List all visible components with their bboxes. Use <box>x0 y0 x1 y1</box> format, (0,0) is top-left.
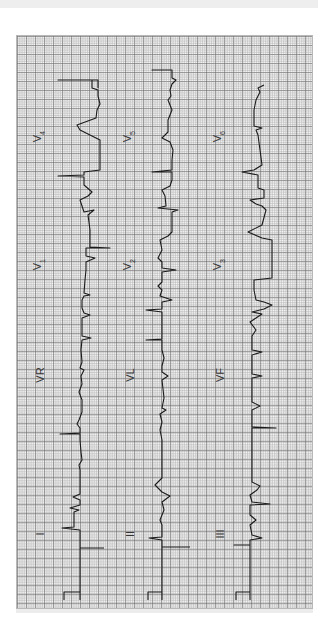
ecg-traces <box>0 0 318 628</box>
lead-label-V2: V2 <box>121 253 138 277</box>
lead-label-V3: V3 <box>211 253 228 277</box>
lead-label-V6: V6 <box>211 125 228 149</box>
lead-label-VL: VL <box>124 363 136 387</box>
lead-label-III: III <box>214 522 226 546</box>
trace-row-3 <box>234 85 276 600</box>
trace-row-1 <box>58 80 110 600</box>
lead-label-V5: V5 <box>121 125 138 149</box>
lead-label-II: II <box>124 522 136 546</box>
lead-label-V1: V1 <box>31 253 48 277</box>
lead-label-V4: V4 <box>31 125 48 149</box>
trace-row-2 <box>146 70 190 600</box>
lead-label-VF: VF <box>214 363 226 387</box>
lead-label-I: I <box>34 522 46 546</box>
lead-label-VR: VR <box>34 363 46 387</box>
